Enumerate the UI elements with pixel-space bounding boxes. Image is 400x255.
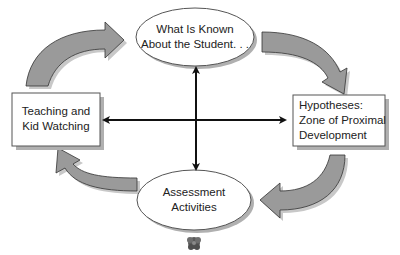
cycle-arrow-left-to-top bbox=[26, 22, 127, 89]
node-top-line-2: About the Student. . . bbox=[136, 37, 254, 52]
node-top-label: What Is Known About the Student. . . bbox=[136, 22, 254, 52]
node-top-line-1: What Is Known bbox=[136, 22, 254, 37]
node-right-line-2: Zone of Proximal bbox=[299, 113, 389, 128]
node-left-line-2: Kid Watching bbox=[12, 119, 100, 134]
decorative-flower-icon bbox=[187, 237, 201, 250]
node-bottom-line-1: Assessment bbox=[137, 185, 251, 200]
node-left-label: Teaching and Kid Watching bbox=[12, 104, 100, 134]
node-left-line-1: Teaching and bbox=[12, 104, 100, 119]
cycle-arrow-right-to-bottom bbox=[260, 155, 348, 221]
cycle-arrow-bottom-to-left bbox=[56, 148, 140, 194]
cycle-arrow-top-to-right bbox=[262, 32, 350, 97]
node-right-line-3: Development bbox=[299, 128, 389, 143]
node-bottom-line-2: Activities bbox=[137, 200, 251, 215]
node-right-label: Hypotheses: Zone of Proximal Development bbox=[299, 98, 389, 143]
node-right-line-1: Hypotheses: bbox=[299, 98, 389, 113]
node-bottom-label: Assessment Activities bbox=[137, 185, 251, 215]
